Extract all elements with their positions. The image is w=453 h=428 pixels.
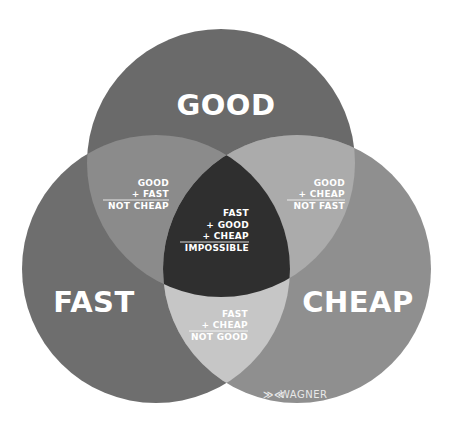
all-line1: FAST xyxy=(223,208,249,218)
label-cheap: CHEAP xyxy=(302,285,414,319)
fast-cheap-result: NOT GOOD xyxy=(191,332,248,342)
wagner-logo: ≫≪ WAGNER xyxy=(263,389,328,400)
all-line3: + CHEAP xyxy=(202,231,249,241)
label-fast: FAST xyxy=(53,285,135,319)
good-fast-line1: GOOD xyxy=(138,178,169,188)
fast-cheap-line1: FAST xyxy=(222,309,248,319)
label-good: GOOD xyxy=(176,88,275,122)
all-line2: + GOOD xyxy=(206,220,249,230)
venn-diagram: GOOD FAST CHEAP GOOD + FAST NOT CHEAP GO… xyxy=(0,0,453,428)
good-cheap-line1: GOOD xyxy=(314,178,345,188)
good-fast-result: NOT CHEAP xyxy=(108,201,169,211)
good-fast-line2: + FAST xyxy=(132,189,170,199)
good-cheap-result: NOT FAST xyxy=(293,201,345,211)
good-cheap-line2: + CHEAP xyxy=(298,189,345,199)
logo-text: WAGNER xyxy=(280,389,328,400)
fast-cheap-line2: + CHEAP xyxy=(201,320,248,330)
all-result: IMPOSSIBLE xyxy=(185,243,249,253)
